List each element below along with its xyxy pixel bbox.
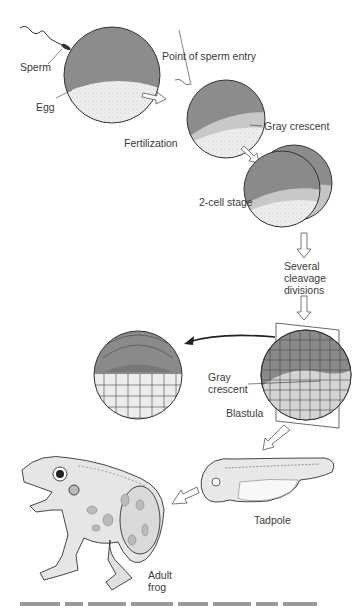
diagram-canvas: [0, 0, 364, 610]
label-cleavage-line3: divisions: [284, 284, 324, 296]
arrow-2cell-to-cleavage: [297, 233, 311, 258]
label-gray-crescent-top: Gray crescent: [264, 120, 329, 132]
arrow-blastula-to-tadpole: [263, 425, 290, 450]
label-cleavage-line1: Several: [284, 260, 320, 272]
label-fertilization: Fertilization: [124, 137, 178, 149]
label-tadpole: Tadpole: [254, 514, 291, 526]
sperm-drawing: [20, 26, 71, 51]
label-gray-crescent-blastula-line1: Gray: [208, 371, 231, 383]
label-adult-frog-line1: Adult: [148, 569, 172, 581]
label-two-cell-stage: 2-cell stage: [199, 196, 253, 208]
adult-frog-drawing: [22, 457, 164, 591]
figure-caption-cutoff: [20, 598, 340, 610]
label-sperm: Sperm: [20, 61, 51, 73]
arrow-tadpole-to-frog: [172, 487, 199, 504]
fertilized-egg-drawing: [175, 79, 266, 165]
label-point-of-sperm-entry: Point of sperm entry: [162, 50, 256, 62]
blastula-section-drawing: [92, 331, 184, 424]
label-egg: Egg: [36, 101, 55, 113]
label-blastula: Blastula: [226, 407, 263, 419]
arrow-cleavage-to-blastula: [297, 296, 311, 320]
blastula-drawing: [261, 323, 351, 428]
label-cleavage-line2: cleavage: [284, 272, 326, 284]
arrow-head: [184, 336, 194, 345]
tadpole-drawing: [201, 458, 334, 502]
label-adult-frog-line2: frog: [148, 581, 166, 593]
label-gray-crescent-blastula-line2: crescent: [208, 383, 248, 395]
egg-drawing: [60, 27, 165, 130]
arrow-to-blastula-section: [188, 335, 275, 342]
